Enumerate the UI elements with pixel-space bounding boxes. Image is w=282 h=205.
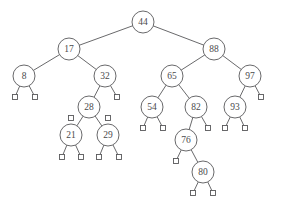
tree-node-label: 82: [191, 102, 201, 112]
tree-edge: [157, 117, 161, 125]
null-leaf-square: [223, 126, 228, 131]
tree-edge: [113, 145, 118, 154]
tree-node: 29: [97, 124, 119, 146]
null-leaf-square: [191, 191, 196, 196]
tree-edge: [177, 150, 181, 158]
tree-edge: [100, 145, 104, 154]
tree-edge: [34, 55, 60, 70]
tree-node-label: 80: [198, 167, 208, 177]
tree-node: 82: [185, 96, 207, 118]
tree-node-label: 76: [181, 135, 191, 145]
null-leaf-square: [60, 155, 65, 160]
tree-edge: [76, 145, 80, 154]
null-leaf-square: [211, 191, 216, 196]
tree-edge: [16, 86, 19, 94]
tree-node: 97: [239, 65, 261, 87]
tree-edge: [158, 85, 166, 97]
tree-edge: [191, 150, 197, 162]
tree-node: 76: [175, 129, 197, 151]
tree-node: 88: [203, 38, 225, 60]
null-leaf-square: [206, 126, 211, 131]
tree-edge: [202, 117, 207, 126]
tree-node: 93: [224, 96, 246, 118]
tree-node: 8: [13, 65, 35, 87]
tree-canvas: 44178883265972854829321297680: [0, 0, 282, 205]
tree-edge: [78, 56, 96, 70]
tree-node: 65: [161, 65, 183, 87]
tree-node: 17: [58, 38, 80, 60]
tree-node: 54: [141, 96, 163, 118]
tree-edge: [153, 26, 203, 45]
null-leaf-square: [243, 126, 248, 131]
tree-node: 80: [192, 161, 214, 183]
null-leaf-square: [117, 155, 122, 160]
tree-edge: [94, 86, 100, 97]
null-leaf-square: [97, 155, 102, 160]
tree-node-label: 21: [66, 130, 76, 140]
tree-node-label: 65: [167, 71, 177, 81]
tree-node-label: 44: [138, 17, 148, 27]
tree-edge: [240, 86, 245, 97]
null-leaf-square: [69, 116, 74, 121]
tree-edge: [181, 55, 204, 70]
null-leaf-square: [106, 116, 111, 121]
tree-edge: [255, 86, 259, 94]
null-leaf-square: [161, 126, 166, 131]
null-leaf-square: [115, 95, 120, 100]
node-layer: 44178883265972854829321297680: [13, 11, 261, 183]
tree-edge: [77, 116, 83, 125]
tree-node-label: 88: [209, 44, 219, 54]
tree-node: 44: [132, 11, 154, 33]
tree-edge: [80, 26, 133, 45]
tree-node-label: 17: [64, 44, 74, 54]
null-leaf-square: [13, 95, 18, 100]
null-leaf-square: [79, 155, 84, 160]
tree-node-label: 32: [100, 71, 110, 81]
tree-node: 21: [60, 124, 82, 146]
tree-edge: [223, 56, 241, 70]
tree-edge: [189, 118, 193, 130]
tree-edge: [240, 117, 244, 125]
null-leaf-square: [141, 126, 146, 131]
tree-node-label: 28: [84, 102, 94, 112]
tree-edge: [144, 117, 147, 125]
tree-node-label: 29: [103, 130, 113, 140]
tree-node-label: 54: [147, 102, 157, 112]
tree-edge: [179, 85, 189, 98]
tree-edge: [208, 182, 212, 190]
tree-edge: [63, 145, 67, 154]
tree-node-label: 97: [245, 71, 255, 81]
null-leaf-square: [259, 95, 264, 100]
tree-node-label: 93: [230, 102, 240, 112]
tree-edge: [194, 182, 198, 190]
null-leaf-square: [174, 159, 179, 164]
tree-node-label: 8: [22, 71, 27, 81]
tree-edge: [29, 86, 33, 94]
tree-node: 28: [78, 96, 100, 118]
tree-edge: [95, 116, 101, 125]
tree-edge: [226, 117, 230, 125]
binary-search-tree-figure: 44178883265972854829321297680: [0, 0, 282, 205]
tree-node: 32: [94, 65, 116, 87]
null-leaf-square: [33, 95, 38, 100]
tree-edge: [111, 86, 116, 95]
